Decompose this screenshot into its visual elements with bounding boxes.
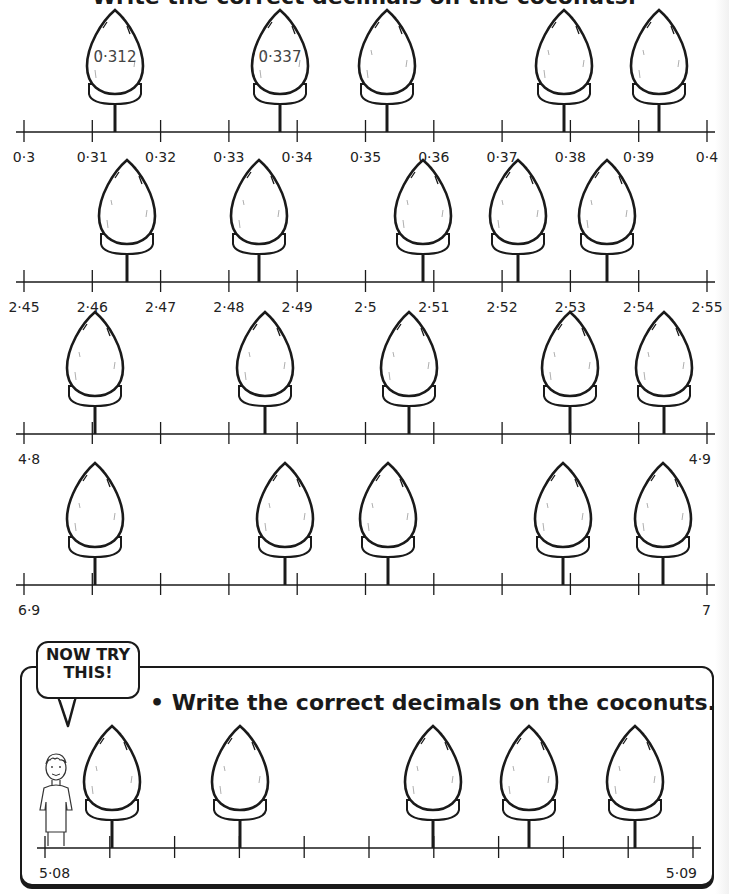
tick-label: 5·08 bbox=[39, 865, 70, 881]
coconut[interactable] bbox=[501, 726, 557, 848]
coconut[interactable] bbox=[607, 726, 663, 848]
coconut-shell bbox=[501, 726, 557, 810]
coconut-shell bbox=[84, 726, 140, 810]
number-line-row-5: 5·085·09 bbox=[0, 0, 729, 894]
coconut-shell bbox=[212, 726, 268, 810]
coconut[interactable] bbox=[405, 726, 461, 848]
coconut-shell bbox=[607, 726, 663, 810]
tick-label: 5·09 bbox=[666, 865, 697, 881]
coconut-shell bbox=[405, 726, 461, 810]
coconut[interactable] bbox=[84, 726, 140, 848]
coconut[interactable] bbox=[212, 726, 268, 848]
